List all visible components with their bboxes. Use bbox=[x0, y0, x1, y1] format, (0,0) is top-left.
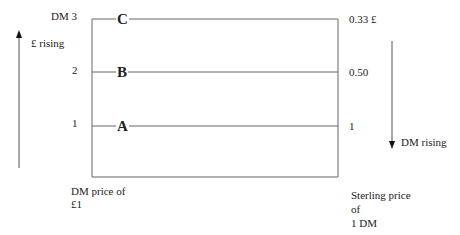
left-tick-1: 1 bbox=[72, 117, 78, 130]
left-axis-caption-line1: DM price of bbox=[71, 185, 125, 198]
point-c: C bbox=[116, 11, 129, 27]
point-a: A bbox=[116, 118, 129, 134]
left-tick-2: 2 bbox=[72, 64, 78, 77]
right-axis-caption-line1: Sterling price bbox=[351, 189, 411, 202]
right-tick-050: 0.50 bbox=[349, 66, 368, 79]
point-b: B bbox=[116, 64, 128, 80]
pound-rising-label: £ rising bbox=[31, 37, 64, 50]
left-tick-3: DM 3 bbox=[51, 10, 77, 23]
up-arrow-icon bbox=[16, 30, 22, 38]
right-axis-caption-line2: of bbox=[351, 203, 360, 216]
dm-rising-label: DM rising bbox=[401, 136, 447, 149]
right-tick-033: 0.33 £ bbox=[349, 13, 377, 26]
right-tick-1: 1 bbox=[349, 120, 355, 133]
left-axis-caption-line2: £1 bbox=[71, 198, 82, 211]
down-arrow-icon bbox=[389, 141, 395, 149]
right-axis-caption-line3: 1 DM bbox=[351, 217, 377, 230]
